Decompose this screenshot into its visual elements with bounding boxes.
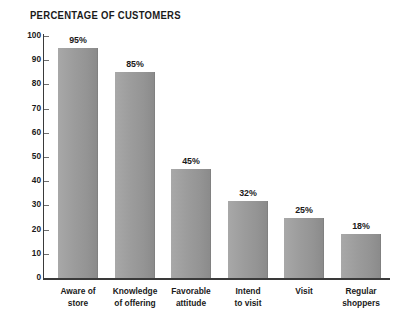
y-axis-tick-label: 40 [32, 175, 41, 185]
y-axis-tick-mark [44, 254, 49, 255]
y-axis-tick-mark [44, 84, 49, 85]
bar-value-label: 95% [50, 34, 106, 45]
bar [228, 201, 268, 278]
y-axis-tick-label: 100 [27, 30, 41, 40]
bar [171, 169, 211, 278]
x-axis-category-label: Regular shoppers [326, 286, 395, 309]
y-axis-tick-label: 10 [32, 248, 41, 258]
bar [341, 234, 381, 278]
bar [284, 218, 324, 279]
y-axis-tick-label: 0 [36, 272, 41, 282]
y-axis-tick-label: 30 [32, 199, 41, 209]
bar-chart: PERCENTAGE OF CUSTOMERS 1009080706050403… [0, 0, 403, 322]
bar-value-label: 18% [333, 220, 389, 231]
x-axis-line [43, 278, 390, 280]
y-axis-tick-mark [44, 205, 49, 206]
bar-value-label: 85% [107, 58, 163, 69]
y-axis-tick-mark [44, 60, 49, 61]
y-axis-tick-mark [44, 230, 49, 231]
bar-value-label: 25% [276, 204, 332, 215]
y-axis-tick-mark [44, 36, 49, 37]
y-axis-tick-label: 80 [32, 78, 41, 88]
y-axis-tick-mark [44, 109, 49, 110]
y-axis-tick-label: 60 [32, 127, 41, 137]
bar [58, 48, 98, 278]
y-axis-tick-label: 20 [32, 224, 41, 234]
y-axis-tick-label: 70 [32, 103, 41, 113]
y-axis-tick-mark [44, 157, 49, 158]
y-axis-tick-label: 50 [32, 151, 41, 161]
bar-value-label: 45% [163, 155, 219, 166]
y-axis-tick-label: 90 [32, 54, 41, 64]
bar [115, 72, 155, 278]
plot-area: 1009080706050403020100 95%85%45%32%25%18… [0, 0, 403, 322]
bar-value-label: 32% [220, 187, 276, 198]
y-axis-tick-mark [44, 181, 49, 182]
y-axis-tick-mark [44, 133, 49, 134]
